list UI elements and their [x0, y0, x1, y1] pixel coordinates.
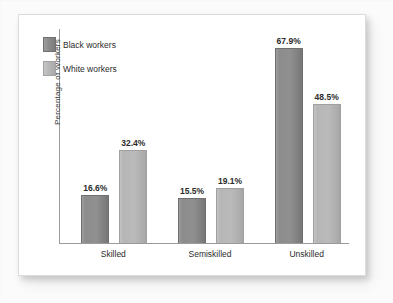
bar-value-label: 16.6% [83, 183, 107, 193]
bar-value-label: 15.5% [180, 186, 204, 196]
bar-group: 15.5%19.1%Semiskilled [178, 29, 242, 243]
bar-semiskilled-white-workers: 19.1% [216, 188, 244, 243]
x-axis-tick-label: Skilled [101, 249, 126, 259]
bar-value-label: 67.9% [277, 36, 301, 46]
chart-legend: Black workers White workers [43, 37, 117, 85]
legend-item-black-workers: Black workers [43, 37, 117, 52]
bar-value-label: 48.5% [315, 92, 339, 102]
x-axis-tick-label: Semiskilled [189, 249, 232, 259]
chart-figure: Percentage of Workers 16.6%32.4%Skilled1… [0, 0, 393, 303]
bar-value-label: 19.1% [218, 176, 242, 186]
bar-unskilled-white-workers: 48.5% [313, 104, 341, 243]
legend-label: Black workers [63, 40, 116, 50]
legend-swatch-icon [43, 61, 56, 76]
bar-skilled-white-workers: 32.4% [119, 150, 147, 243]
x-axis-tick-label: Unskilled [289, 249, 324, 259]
legend-label: White workers [63, 64, 117, 74]
bar-semiskilled-black-workers: 15.5% [178, 198, 206, 243]
bar-value-label: 32.4% [121, 138, 145, 148]
legend-item-white-workers: White workers [43, 61, 117, 76]
chart-card: Percentage of Workers 16.6%32.4%Skilled1… [18, 14, 366, 276]
bar-unskilled-black-workers: 67.9% [275, 48, 303, 243]
bar-skilled-black-workers: 16.6% [81, 195, 109, 243]
bar-group: 67.9%48.5%Unskilled [275, 29, 339, 243]
x-axis-line [59, 243, 349, 244]
legend-swatch-icon [43, 37, 56, 52]
